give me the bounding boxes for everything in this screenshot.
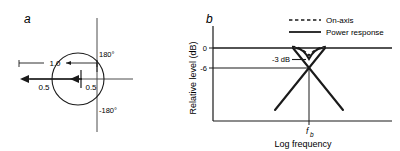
panel-a-letter: a [24,12,31,26]
panel-a: a 1.0 0.5 0.5 180° -180° [19,12,133,132]
legend-label-power-response: Power response [326,28,384,37]
panel-b: b 0 -6 Relative level (dB) -3 dB f [188,12,392,149]
chart-y-tick-label-minus6: -6 [200,64,207,73]
angle-label-top: 180° [99,50,115,59]
legend-label-on-axis: On-axis [326,16,354,25]
panel-b-letter: b [206,12,213,26]
angle-label-bottom: -180° [99,106,117,115]
chart-y-axis-label: Relative level (dB) [188,41,198,114]
chart-legend: On-axis Power response [289,16,384,37]
dimension-label-1-0: 1.0 [49,59,61,68]
chart-y-tick-label-0: 0 [203,44,207,53]
dimension-arrowhead-inner [66,61,71,65]
figure-svg: a 1.0 0.5 0.5 180° -180° b [0,0,400,151]
vector-right-label: 0.5 [85,83,97,92]
chart-annotation-minus3db: -3 dB [272,55,290,64]
chart-x-tick-label-fb-sub: b [310,131,314,138]
chart-x-axis-label: Log frequency [274,139,332,149]
vector-left-label: 0.5 [38,83,50,92]
vector-left-arrowhead [20,75,29,83]
chart-x-tick-label-fb: f b [306,126,314,138]
figure-container: a 1.0 0.5 0.5 180° -180° b [0,0,400,151]
vector-inner-arrowhead [70,75,79,83]
